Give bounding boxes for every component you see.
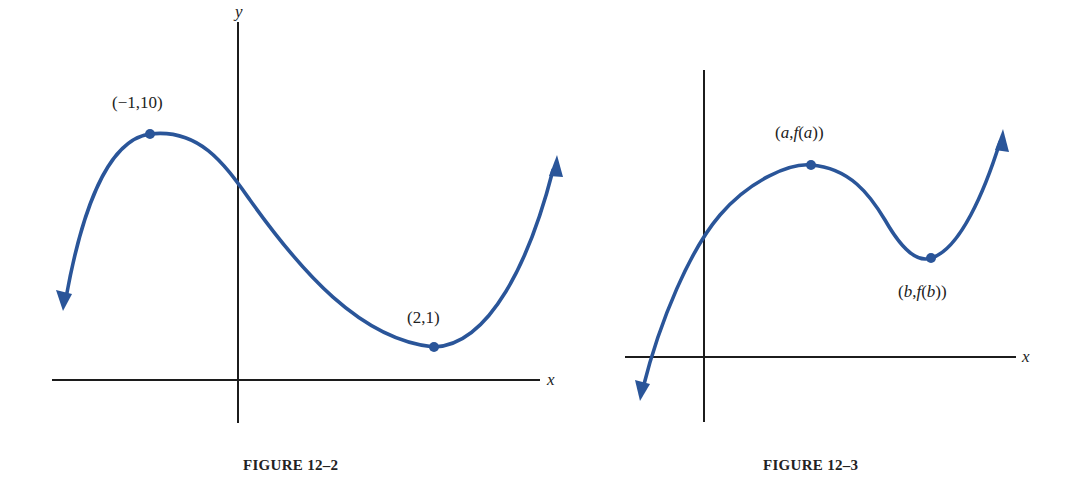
figures-canvas: y x (−1,10) (2,1) FIGURE 12–2 x (a,f(a))… <box>0 0 1075 487</box>
arrow-up-right-icon <box>995 129 1009 152</box>
max-point-label: (−1,10) <box>112 93 163 112</box>
x-axis-label: x <box>546 370 555 389</box>
arrow-up-right-icon <box>549 155 563 177</box>
max-point <box>806 160 816 170</box>
figure-caption: FIGURE 12–3 <box>763 457 858 473</box>
figure-caption: FIGURE 12–2 <box>243 457 338 473</box>
max-point-label: (a,f(a)) <box>775 123 824 142</box>
arrow-down-left-icon <box>635 380 650 401</box>
arrow-down-left-icon <box>56 290 72 311</box>
min-point <box>926 253 936 263</box>
y-axis-label: y <box>233 2 243 21</box>
min-point <box>429 342 439 352</box>
figure-12-2: y x (−1,10) (2,1) FIGURE 12–2 <box>52 2 563 473</box>
min-point-label: (b,f(b)) <box>898 282 947 301</box>
curve <box>66 133 553 347</box>
x-axis-label: x <box>1021 347 1030 366</box>
curve <box>643 142 1000 388</box>
figure-12-3: x (a,f(a)) (b,f(b)) FIGURE 12–3 <box>625 70 1030 473</box>
max-point <box>145 129 155 139</box>
min-point-label: (2,1) <box>407 308 440 327</box>
